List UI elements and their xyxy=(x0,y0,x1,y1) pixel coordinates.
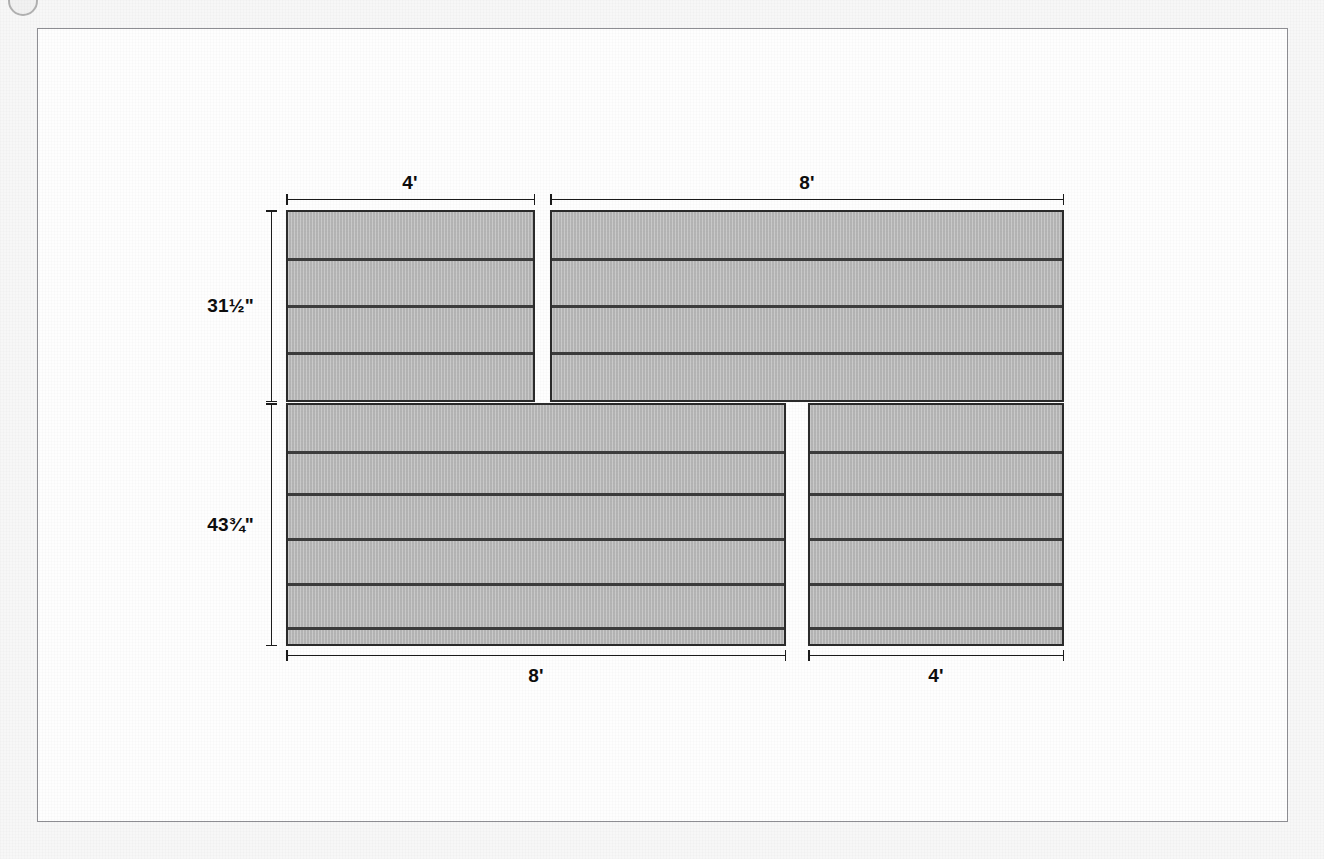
panel-divider-line xyxy=(552,258,1062,261)
dimension-label-upper-row-height: 31½" xyxy=(158,295,254,317)
page-corner-dot-icon xyxy=(8,0,38,16)
panel-divider-line xyxy=(288,258,533,261)
panel-divider-line xyxy=(288,627,784,630)
panel-divider-line xyxy=(810,627,1062,630)
dimension-label-lower-row-height: 43¾" xyxy=(158,514,254,536)
dimension-label-bottom-left-width: 8' xyxy=(528,665,544,687)
panel-bottom-left[interactable] xyxy=(286,403,786,646)
dimension-line-bottom-left-width xyxy=(286,655,786,656)
panel-divider-line xyxy=(552,305,1062,308)
dimension-label-top-right-width: 8' xyxy=(799,172,815,194)
panel-surface-texture xyxy=(288,405,784,644)
dimension-line-top-left-width xyxy=(286,199,535,200)
dimension-label-top-left-width: 4' xyxy=(402,172,418,194)
panel-divider-line xyxy=(288,583,784,586)
panel-divider-line xyxy=(810,583,1062,586)
panel-surface-texture xyxy=(810,405,1062,644)
drawing-canvas: 4' 8' 31½" 43¾" xyxy=(38,29,1287,821)
panel-divider-line xyxy=(288,493,784,496)
panel-top-right[interactable] xyxy=(550,210,1064,402)
dimension-line-lower-row-height xyxy=(271,403,272,646)
dimension-label-bottom-right-width: 4' xyxy=(928,665,944,687)
panel-bottom-right[interactable] xyxy=(808,403,1064,646)
drawing-frame: 4' 8' 31½" 43¾" xyxy=(37,28,1288,822)
panel-divider-line xyxy=(810,493,1062,496)
panel-divider-line xyxy=(288,538,784,541)
panel-divider-line xyxy=(288,451,784,454)
panel-divider-line xyxy=(288,305,533,308)
panel-divider-line xyxy=(810,451,1062,454)
dimension-line-bottom-right-width xyxy=(808,655,1064,656)
panel-divider-line xyxy=(552,352,1062,355)
dimension-line-upper-row-height xyxy=(271,210,272,402)
dimension-line-top-right-width xyxy=(550,199,1064,200)
panel-top-left[interactable] xyxy=(286,210,535,402)
panel-divider-line xyxy=(288,352,533,355)
panel-divider-line xyxy=(810,538,1062,541)
